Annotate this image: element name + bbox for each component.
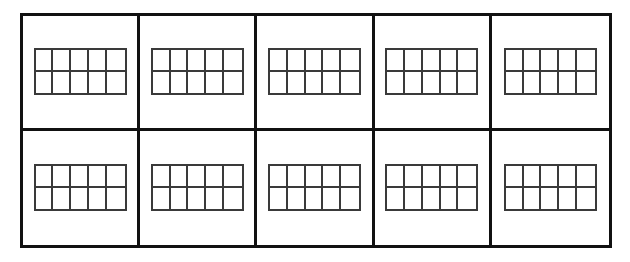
ten-frame-cell[interactable] xyxy=(441,166,459,188)
ten-frame-cell[interactable] xyxy=(423,72,441,94)
ten-frame-cell[interactable] xyxy=(89,188,107,210)
ten-frame-cell[interactable] xyxy=(541,72,559,94)
grid-cell-7[interactable] xyxy=(140,131,257,246)
ten-frame-cell[interactable] xyxy=(458,188,476,210)
ten-frame-cell[interactable] xyxy=(423,166,441,188)
ten-frame-cell[interactable] xyxy=(559,166,577,188)
grid-cell-2[interactable] xyxy=(140,16,257,131)
ten-frame-cell[interactable] xyxy=(224,166,242,188)
ten-frame-cell[interactable] xyxy=(506,188,524,210)
ten-frame-10[interactable] xyxy=(504,164,597,211)
grid-cell-5[interactable] xyxy=(492,16,609,131)
grid-cell-4[interactable] xyxy=(375,16,492,131)
ten-frame-cell[interactable] xyxy=(306,50,324,72)
ten-frame-cell[interactable] xyxy=(270,72,288,94)
ten-frame-cell[interactable] xyxy=(577,72,595,94)
grid-cell-6[interactable] xyxy=(23,131,140,246)
ten-frame-cell[interactable] xyxy=(71,50,89,72)
ten-frame-cell[interactable] xyxy=(288,72,306,94)
ten-frame-cell[interactable] xyxy=(36,50,54,72)
ten-frame-cell[interactable] xyxy=(153,72,171,94)
ten-frame-cell[interactable] xyxy=(171,72,189,94)
ten-frame-cell[interactable] xyxy=(53,166,71,188)
ten-frame-cell[interactable] xyxy=(559,50,577,72)
ten-frame-6[interactable] xyxy=(34,164,127,211)
ten-frame-cell[interactable] xyxy=(458,72,476,94)
ten-frame-cell[interactable] xyxy=(224,188,242,210)
ten-frame-cell[interactable] xyxy=(506,72,524,94)
ten-frame-cell[interactable] xyxy=(341,166,359,188)
ten-frame-cell[interactable] xyxy=(89,50,107,72)
ten-frame-cell[interactable] xyxy=(107,166,125,188)
ten-frame-cell[interactable] xyxy=(423,50,441,72)
ten-frame-cell[interactable] xyxy=(107,188,125,210)
ten-frame-cell[interactable] xyxy=(306,72,324,94)
ten-frame-cell[interactable] xyxy=(53,188,71,210)
ten-frame-cell[interactable] xyxy=(506,166,524,188)
ten-frame-cell[interactable] xyxy=(224,72,242,94)
ten-frame-cell[interactable] xyxy=(89,166,107,188)
ten-frame-cell[interactable] xyxy=(405,72,423,94)
ten-frame-cell[interactable] xyxy=(107,72,125,94)
ten-frame-cell[interactable] xyxy=(458,50,476,72)
ten-frame-cell[interactable] xyxy=(153,166,171,188)
ten-frame-cell[interactable] xyxy=(387,50,405,72)
ten-frame-cell[interactable] xyxy=(270,166,288,188)
ten-frame-cell[interactable] xyxy=(206,72,224,94)
ten-frame-cell[interactable] xyxy=(288,50,306,72)
ten-frame-cell[interactable] xyxy=(188,72,206,94)
ten-frame-cell[interactable] xyxy=(153,50,171,72)
ten-frame-cell[interactable] xyxy=(341,72,359,94)
ten-frame-9[interactable] xyxy=(385,164,478,211)
ten-frame-cell[interactable] xyxy=(559,72,577,94)
ten-frame-3[interactable] xyxy=(268,48,361,95)
ten-frame-cell[interactable] xyxy=(306,166,324,188)
ten-frame-cell[interactable] xyxy=(524,166,542,188)
ten-frame-cell[interactable] xyxy=(559,188,577,210)
ten-frame-cell[interactable] xyxy=(341,188,359,210)
ten-frame-cell[interactable] xyxy=(577,188,595,210)
ten-frame-cell[interactable] xyxy=(206,50,224,72)
ten-frame-cell[interactable] xyxy=(441,188,459,210)
ten-frame-cell[interactable] xyxy=(171,188,189,210)
ten-frame-8[interactable] xyxy=(268,164,361,211)
ten-frame-cell[interactable] xyxy=(224,50,242,72)
ten-frame-cell[interactable] xyxy=(524,72,542,94)
ten-frame-cell[interactable] xyxy=(541,188,559,210)
ten-frame-cell[interactable] xyxy=(288,166,306,188)
ten-frame-cell[interactable] xyxy=(577,166,595,188)
ten-frame-cell[interactable] xyxy=(323,188,341,210)
ten-frame-cell[interactable] xyxy=(206,188,224,210)
ten-frame-cell[interactable] xyxy=(36,166,54,188)
grid-cell-9[interactable] xyxy=(375,131,492,246)
ten-frame-2[interactable] xyxy=(151,48,244,95)
ten-frame-cell[interactable] xyxy=(89,72,107,94)
ten-frame-cell[interactable] xyxy=(323,166,341,188)
ten-frame-cell[interactable] xyxy=(71,166,89,188)
ten-frame-cell[interactable] xyxy=(36,188,54,210)
ten-frame-cell[interactable] xyxy=(71,72,89,94)
ten-frame-cell[interactable] xyxy=(36,72,54,94)
ten-frame-cell[interactable] xyxy=(405,188,423,210)
ten-frame-cell[interactable] xyxy=(153,188,171,210)
ten-frame-cell[interactable] xyxy=(188,50,206,72)
ten-frame-cell[interactable] xyxy=(524,50,542,72)
ten-frame-cell[interactable] xyxy=(107,50,125,72)
ten-frame-cell[interactable] xyxy=(441,50,459,72)
ten-frame-cell[interactable] xyxy=(577,50,595,72)
ten-frame-cell[interactable] xyxy=(270,50,288,72)
ten-frame-cell[interactable] xyxy=(171,50,189,72)
ten-frame-cell[interactable] xyxy=(288,188,306,210)
grid-cell-3[interactable] xyxy=(257,16,374,131)
ten-frame-cell[interactable] xyxy=(53,50,71,72)
ten-frame-cell[interactable] xyxy=(387,166,405,188)
ten-frame-cell[interactable] xyxy=(541,166,559,188)
ten-frame-cell[interactable] xyxy=(341,50,359,72)
grid-cell-1[interactable] xyxy=(23,16,140,131)
ten-frame-cell[interactable] xyxy=(524,188,542,210)
ten-frame-cell[interactable] xyxy=(506,50,524,72)
ten-frame-cell[interactable] xyxy=(441,72,459,94)
ten-frame-4[interactable] xyxy=(385,48,478,95)
ten-frame-cell[interactable] xyxy=(53,72,71,94)
ten-frame-cell[interactable] xyxy=(405,166,423,188)
